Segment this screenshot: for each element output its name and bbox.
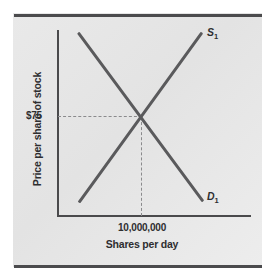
demand-curve-label: D1 — [207, 190, 219, 205]
x-axis-line — [57, 215, 251, 217]
supply-curve-label-subscript: 1 — [214, 32, 218, 41]
x-axis-tick-label-quantity: 10,000,000 — [57, 222, 227, 233]
bottom-rule-divider — [14, 265, 262, 268]
y-axis-line — [57, 30, 59, 217]
x-axis-title: Shares per day — [57, 238, 227, 250]
top-rule-divider — [14, 14, 262, 17]
demand-curve-label-subscript: 1 — [215, 196, 219, 205]
demand-curve-label-letter: D — [207, 190, 215, 202]
equilibrium-price-guide-line — [58, 116, 142, 117]
supply-curve-label: S1 — [207, 26, 218, 41]
y-axis-tick-label-price: $75 — [26, 110, 42, 121]
equilibrium-quantity-guide-line — [141, 117, 142, 216]
supply-curve-label-letter: S — [207, 26, 214, 38]
figure-supply-demand: Price per share of stock $75 10,000,000 … — [0, 0, 277, 279]
y-axis-title: Price per share of stock — [31, 49, 43, 209]
